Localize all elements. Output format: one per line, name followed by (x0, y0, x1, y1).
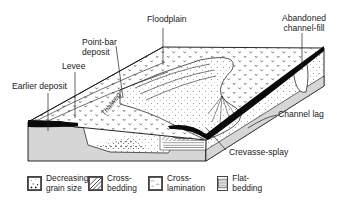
channel-lag-label: Channel lag (278, 110, 324, 120)
abandoned-channel-fill-label: Abandoned channel-fill (282, 14, 326, 33)
abandoned-line2: channel-fill (282, 24, 326, 34)
horizontal-lines-pattern-icon (217, 176, 228, 191)
legend-line2: lamination (167, 184, 205, 194)
diagonal-hatch-pattern-icon (88, 176, 103, 191)
dotted-grain-pattern-icon (27, 176, 42, 191)
wavy-lamination-pattern-icon (148, 176, 163, 191)
earlier-deposit-label: Earlier deposit (12, 82, 67, 92)
legend-item-cross-lamination: Cross- lamination (148, 174, 205, 193)
legend-line2: bedding (107, 184, 137, 194)
crevasse-splay-label: Crevasse-splay (229, 148, 288, 158)
legend-item-flat-bedding: Flat-bedding (217, 174, 266, 193)
floodplain-label: Floodplain (147, 15, 187, 25)
levee-label: Levee (62, 62, 85, 72)
point-bar-deposit-label: Point-bar deposit (82, 38, 117, 57)
point-bar-line2: deposit (82, 48, 117, 58)
legend-item-decreasing-grain-size: Decreasing grain size (27, 174, 88, 193)
legend-line1: Flat-bedding (232, 174, 265, 193)
legend-line2: grain size (46, 184, 88, 194)
legend-item-cross-bedding: Cross- bedding (88, 174, 137, 193)
